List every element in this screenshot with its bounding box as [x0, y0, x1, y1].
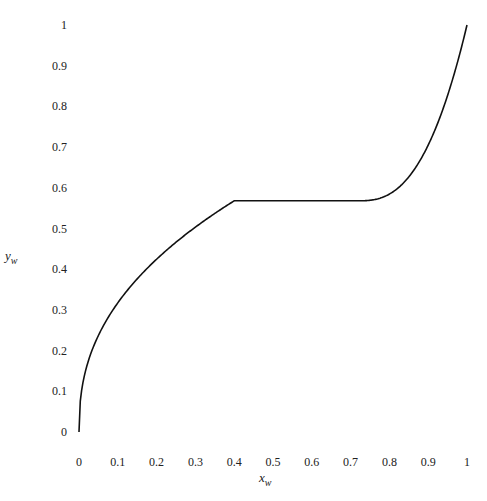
y-tick-label: 0.4: [27, 262, 67, 277]
y-tick-label: 0.2: [27, 344, 67, 359]
y-tick-label: 0.1: [27, 384, 67, 399]
y-tick-label: 0.7: [27, 140, 67, 155]
y-tick-label: 0.3: [27, 303, 67, 318]
x-tick-label: 0.3: [180, 455, 210, 470]
x-tick-label: 0.1: [103, 455, 133, 470]
x-tick-label: 0: [64, 455, 94, 470]
data-line: [79, 25, 467, 432]
x-tick-label: 0.7: [336, 455, 366, 470]
y-tick-label: 1: [27, 18, 67, 33]
x-axis-label: xw: [259, 470, 271, 488]
y-axis-label: yw: [5, 248, 17, 266]
chart: 00.10.20.30.40.50.60.70.80.91 00.10.20.3…: [0, 0, 487, 501]
y-tick-label: 0.8: [27, 99, 67, 114]
plot-area: [0, 0, 487, 501]
x-tick-label: 1: [452, 455, 482, 470]
y-tick-label: 0.5: [27, 222, 67, 237]
x-tick-label: 0.6: [297, 455, 327, 470]
y-tick-label: 0.9: [27, 59, 67, 74]
x-tick-label: 0.5: [258, 455, 288, 470]
y-tick-label: 0.6: [27, 181, 67, 196]
x-tick-label: 0.9: [413, 455, 443, 470]
x-tick-label: 0.8: [374, 455, 404, 470]
x-tick-label: 0.2: [142, 455, 172, 470]
y-tick-label: 0: [27, 425, 67, 440]
x-tick-label: 0.4: [219, 455, 249, 470]
